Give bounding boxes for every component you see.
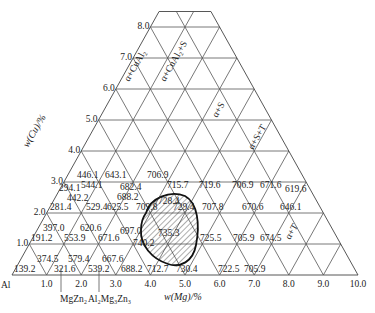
temperature-value: 671.6 xyxy=(260,180,282,190)
y-tick-label: 8.0 xyxy=(138,21,150,31)
y-tick-label: 6.0 xyxy=(103,83,115,93)
temperature-value: 682.4 xyxy=(120,182,142,192)
y-tick-label: 3.0 xyxy=(51,176,63,186)
x-tick-label: 3.0 xyxy=(110,279,122,289)
y-tick-label: 4.0 xyxy=(68,145,80,155)
temperature-value: 722.5 xyxy=(218,264,240,274)
temperature-value: 674.5 xyxy=(260,233,282,243)
phase-label: α+T xyxy=(283,222,300,241)
temperature-value: 579.4 xyxy=(68,254,90,264)
x-tick-label: 9.0 xyxy=(317,279,329,289)
x-tick-label: 1.0 xyxy=(41,279,53,289)
temperature-value: 728.4 xyxy=(158,196,180,206)
y-tick-label: 5.0 xyxy=(86,114,98,124)
temperature-value: 620.6 xyxy=(80,223,102,233)
compound-label: MgZn₂ xyxy=(60,294,87,304)
y-tick-label: 7.0 xyxy=(120,52,132,62)
ternary-phase-diagram: 139.2374.5321.6579.4539.2667.6688.2712.7… xyxy=(0,0,375,313)
temperature-value: 281.4 xyxy=(50,202,72,212)
temperature-value: 706.9 xyxy=(232,180,254,190)
temperature-value: 706.9 xyxy=(147,170,169,180)
x-tick-label: 6.0 xyxy=(214,279,226,289)
x-tick-label: 7.0 xyxy=(248,279,260,289)
grid-line-left-parallel xyxy=(323,244,340,275)
temperature-value: 553.9 xyxy=(64,233,86,243)
temperature-value: 719.6 xyxy=(199,180,221,190)
temperature-value: 712.7 xyxy=(147,264,169,274)
temperature-value: 735.3 xyxy=(158,228,180,238)
temperature-value: 740.2 xyxy=(133,238,155,248)
temperature-value: 544.1 xyxy=(81,180,103,190)
temperature-value: 321.6 xyxy=(54,264,76,274)
temperature-value: 191.2 xyxy=(31,233,53,243)
x-axis-label: w(Mg)/% xyxy=(164,291,202,303)
temperature-value: 397.0 xyxy=(43,223,65,233)
x-tick-label: 8.0 xyxy=(283,279,295,289)
x-tick-label: 4.0 xyxy=(144,279,156,289)
temperature-value: 529.4 xyxy=(86,202,108,212)
temperature-value: 697.0 xyxy=(120,226,142,236)
y-tick-label: 1.0 xyxy=(16,238,28,248)
temperature-value: 625.5 xyxy=(107,202,129,212)
phase-label: α+S+T xyxy=(246,123,268,151)
temperature-value: 667.6 xyxy=(102,254,124,264)
temperature-value: 646.1 xyxy=(280,202,302,212)
temperature-value: 688.2 xyxy=(117,192,139,202)
temperature-value: 643.1 xyxy=(105,170,127,180)
x-tick-label: 10.0 xyxy=(350,279,367,289)
temperature-value: 725.5 xyxy=(200,233,222,243)
phase-label: α+CuAl₂+S xyxy=(158,39,189,83)
temperature-value: 446.1 xyxy=(77,170,99,180)
temperature-value: 671.6 xyxy=(98,233,120,243)
temperature-value: 619.6 xyxy=(285,184,307,194)
x-tick-label: 2.0 xyxy=(75,279,87,289)
temperature-value: 670.6 xyxy=(242,202,264,212)
temperature-value: 442.2 xyxy=(67,193,89,203)
temperature-value: 688.2 xyxy=(121,264,143,274)
compound-label: Al₂Mg₃Zn₃ xyxy=(88,294,131,304)
temperature-value: 374.5 xyxy=(37,254,59,264)
temperature-value: 705.9 xyxy=(233,233,255,243)
al-corner-label: Al xyxy=(1,280,11,290)
temperature-value: 715.7 xyxy=(167,180,189,190)
y-axis-label: w(Cu)/% xyxy=(20,112,48,149)
y-tick-label: 2.0 xyxy=(34,207,46,217)
temperature-value: 705.9 xyxy=(244,264,266,274)
temperature-value: 139.2 xyxy=(14,264,36,274)
temperature-value: 707.8 xyxy=(202,202,224,212)
phase-label: α+S xyxy=(210,100,226,119)
x-tick-label: 5.0 xyxy=(179,279,191,289)
temperature-value: 730.4 xyxy=(176,264,198,274)
temperature-value: 709.8 xyxy=(136,202,158,212)
